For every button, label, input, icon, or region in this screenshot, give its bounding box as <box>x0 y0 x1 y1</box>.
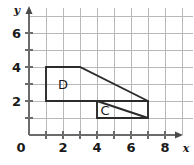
y-tick-label-4: 4 <box>12 60 21 75</box>
coordinate-grid-figure: 6 4 2 0 2 4 6 8 y x D C <box>0 0 194 165</box>
shape-d-label: D <box>58 77 68 92</box>
y-tick-label-6: 6 <box>12 26 21 41</box>
x-tick-label-4: 4 <box>92 140 101 155</box>
y-tick-label-2: 2 <box>12 94 21 109</box>
x-axis-label: x <box>182 142 190 155</box>
x-tick-label-8: 8 <box>160 140 169 155</box>
x-tick-label-2: 2 <box>58 140 67 155</box>
origin-label: 0 <box>16 140 25 155</box>
x-tick-label-6: 6 <box>126 140 135 155</box>
plot-area: 6 4 2 0 2 4 6 8 y x D C <box>0 0 194 165</box>
shape-c-label: C <box>100 103 109 118</box>
